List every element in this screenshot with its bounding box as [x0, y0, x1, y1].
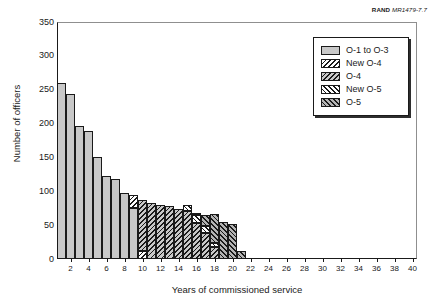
- bar-segment: [201, 233, 210, 259]
- x-axis-tick-mark: [269, 259, 270, 262]
- y-axis-tick-label: 100: [20, 187, 54, 196]
- bar-segment: [210, 214, 219, 243]
- bar-column: [57, 22, 66, 259]
- bar-segment: [66, 94, 75, 259]
- y-axis-tick-label: 350: [20, 18, 54, 27]
- bar-column: [237, 22, 246, 259]
- source-publisher: RAND: [372, 6, 390, 13]
- y-axis-tick-label: 250: [20, 85, 54, 94]
- legend-swatch-icon: [321, 46, 340, 55]
- bar-column: [228, 22, 237, 259]
- legend-item-label: O-5: [346, 98, 361, 107]
- y-axis-tick-label: 50: [20, 221, 54, 230]
- bar-segment: [174, 209, 183, 259]
- x-axis-tick-mark: [341, 259, 342, 262]
- bar-column: [219, 22, 228, 259]
- legend-item: O-5: [321, 96, 401, 109]
- x-axis-title: Years of commissioned service: [57, 284, 417, 295]
- legend-swatch-icon: [321, 59, 340, 68]
- bar-segment: [192, 213, 201, 215]
- legend-item-label: O-1 to O-3: [346, 46, 389, 55]
- bar-segment: [102, 176, 111, 259]
- bar-column: [102, 22, 111, 259]
- legend-item: New O-4: [321, 57, 401, 70]
- legend-item-label: O-4: [346, 72, 361, 81]
- bar-segment: [219, 222, 228, 259]
- bar-column: [75, 22, 84, 259]
- bar-column: [84, 22, 93, 259]
- x-axis-tick-mark: [179, 259, 180, 262]
- x-axis-tick-mark: [71, 259, 72, 262]
- legend-item-label: New O-5: [346, 85, 382, 94]
- bar-segment: [138, 200, 147, 251]
- bar-segment: [192, 215, 201, 223]
- bar-column: [174, 22, 183, 259]
- bar-column: [111, 22, 120, 259]
- bar-segment: [129, 208, 138, 259]
- x-axis-tick-marks: [57, 259, 417, 263]
- x-axis-tick-label: 40: [401, 265, 425, 273]
- y-axis-tick-label: 150: [20, 153, 54, 162]
- source-document-id: MR1479-7.7: [392, 6, 427, 13]
- chart-figure: RAND MR1479-7.7 050100150200250300350 24…: [0, 0, 431, 306]
- chart-legend: O-1 to O-3New O-4O-4New O-5O-5: [313, 37, 409, 116]
- legend-item: O-1 to O-3: [321, 44, 401, 57]
- x-axis-tick-mark: [143, 259, 144, 262]
- legend-item: New O-5: [321, 83, 401, 96]
- y-axis-title: Number of officers: [11, 64, 22, 184]
- y-axis-tick-labels: 050100150200250300350: [16, 0, 54, 306]
- x-axis-tick-mark: [413, 259, 414, 262]
- x-axis-tick-mark: [251, 259, 252, 262]
- legend-item: O-4: [321, 70, 401, 83]
- legend-swatch-icon: [321, 98, 340, 107]
- bar-segment: [111, 179, 120, 259]
- bar-column: [192, 22, 201, 259]
- bar-column: [147, 22, 156, 259]
- bar-column: [66, 22, 75, 259]
- bar-segment: [138, 251, 147, 259]
- legend-swatch-icon: [321, 85, 340, 94]
- bar-segment: [165, 206, 174, 259]
- x-axis-tick-mark: [395, 259, 396, 262]
- bar-column: [165, 22, 174, 259]
- bar-segment: [183, 205, 192, 211]
- bar-column: [210, 22, 219, 259]
- bar-segment: [210, 247, 219, 259]
- x-axis-tick-mark: [89, 259, 90, 262]
- bar-segment: [84, 131, 93, 259]
- x-axis-tick-mark: [107, 259, 108, 262]
- x-axis-tick-mark: [197, 259, 198, 262]
- bar-segment: [237, 251, 246, 259]
- bar-segment: [201, 226, 210, 233]
- x-axis-tick-mark: [125, 259, 126, 262]
- y-axis-tick-label: 200: [20, 119, 54, 128]
- x-axis-tick-mark: [323, 259, 324, 262]
- legend-swatch-icon: [321, 72, 340, 81]
- x-axis-tick-mark: [359, 259, 360, 262]
- bar-segment: [156, 205, 165, 259]
- bar-column: [201, 22, 210, 259]
- bar-segment: [183, 211, 192, 259]
- y-axis-tick-label: 300: [20, 51, 54, 60]
- x-axis-tick-mark: [215, 259, 216, 262]
- x-axis-tick-mark: [161, 259, 162, 262]
- legend-item-label: New O-4: [346, 59, 382, 68]
- bar-segment: [75, 126, 84, 259]
- bar-column: [138, 22, 147, 259]
- y-axis-tick-label: 0: [20, 255, 54, 264]
- source-note: RAND MR1479-7.7: [372, 6, 427, 13]
- bar-segment: [93, 157, 102, 259]
- bar-column: [120, 22, 129, 259]
- x-axis-tick-mark: [287, 259, 288, 262]
- x-axis-tick-mark: [377, 259, 378, 262]
- bar-segment: [57, 83, 66, 259]
- x-axis-tick-labels: 246810121416182022242628303234363840: [57, 265, 417, 277]
- bar-segment: [201, 215, 210, 226]
- bar-segment: [192, 223, 201, 259]
- bar-segment: [129, 195, 138, 209]
- bar-segment: [120, 193, 129, 259]
- x-axis-tick-mark: [305, 259, 306, 262]
- bar-segment: [210, 243, 219, 246]
- bar-segment: [228, 224, 237, 259]
- bar-column: [156, 22, 165, 259]
